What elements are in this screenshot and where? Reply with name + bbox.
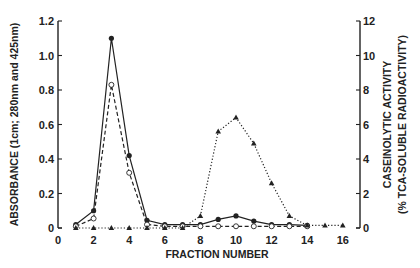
y-tick-label: 0.4 xyxy=(39,153,55,165)
y-axis-title: ABSORBANCE (1cm; 280nm and 425nm) xyxy=(8,23,20,227)
data-point-open-circle xyxy=(216,224,221,229)
data-point-triangle xyxy=(198,213,204,218)
x-tick-label: 6 xyxy=(162,234,168,246)
chart: 00.20.40.60.81.01.2024681012024681012141… xyxy=(0,0,420,268)
y-tick-label: 0.2 xyxy=(39,188,54,200)
y-tick-label: 0.8 xyxy=(39,84,54,96)
y2-tick-label: 8 xyxy=(363,84,369,96)
data-point-open-circle xyxy=(287,224,292,229)
x-tick-label: 0 xyxy=(55,234,61,246)
data-point-filled-circle xyxy=(127,153,132,158)
data-point-triangle xyxy=(269,180,275,185)
data-point-open-circle xyxy=(109,82,114,87)
data-point-triangle xyxy=(109,225,115,230)
x-axis-title: FRACTION NUMBER xyxy=(165,248,269,260)
y2-tick-label: 2 xyxy=(363,188,369,200)
y2-axis-title-line2: (% TCA-SOLUBLE RADIOACTIVITY) xyxy=(396,35,408,214)
y2-tick-label: 6 xyxy=(363,119,369,131)
y-tick-label: 0 xyxy=(48,222,54,234)
data-point-open-circle xyxy=(234,224,239,229)
y2-tick-label: 0 xyxy=(363,222,369,234)
series-line xyxy=(76,38,307,225)
data-point-triangle xyxy=(287,213,293,218)
data-point-open-circle xyxy=(198,224,203,229)
data-point-filled-circle xyxy=(233,213,238,218)
y2-axis-title-line1: CASEINOLYTIC ACTIVITY xyxy=(381,61,393,189)
x-tick-label: 4 xyxy=(126,234,133,246)
data-point-open-circle xyxy=(269,224,274,229)
x-tick-label: 2 xyxy=(91,234,97,246)
series-line xyxy=(76,118,343,228)
y2-tick-label: 12 xyxy=(363,15,375,27)
y2-tick-label: 4 xyxy=(363,153,370,165)
x-tick-label: 10 xyxy=(230,234,242,246)
data-point-filled-circle xyxy=(251,219,256,224)
data-point-open-circle xyxy=(91,216,96,221)
data-point-open-circle xyxy=(251,224,256,229)
y2-tick-label: 10 xyxy=(363,50,375,62)
y-tick-label: 1.2 xyxy=(39,15,54,27)
data-point-triangle xyxy=(233,115,239,120)
series-line xyxy=(76,85,307,226)
x-tick-label: 16 xyxy=(337,234,349,246)
y-tick-label: 0.6 xyxy=(39,119,54,131)
data-point-triangle xyxy=(322,222,328,227)
x-tick-label: 8 xyxy=(197,234,203,246)
y-tick-label: 1.0 xyxy=(39,50,54,62)
data-point-filled-circle xyxy=(216,217,221,222)
x-tick-label: 14 xyxy=(301,234,314,246)
data-point-open-circle xyxy=(127,170,132,175)
data-point-filled-circle xyxy=(109,36,114,41)
x-tick-label: 12 xyxy=(265,234,277,246)
